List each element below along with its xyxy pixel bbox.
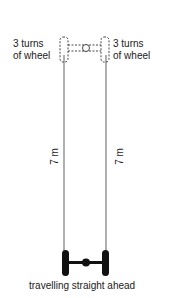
bottom-hub <box>82 259 90 267</box>
left-turns-line2: of wheel <box>13 50 50 62</box>
right-turns-label: 3 turns of wheel <box>113 38 150 62</box>
top-right-wheel-dashed <box>101 37 109 62</box>
top-hub-circle <box>83 45 90 52</box>
left-distance-label: 7 m <box>49 148 60 165</box>
left-turns-line1: 3 turns <box>13 38 50 50</box>
right-distance-label: 7 m <box>114 148 125 165</box>
bottom-right-wheel <box>102 250 109 276</box>
right-turns-line2: of wheel <box>113 50 150 62</box>
bottom-left-wheel <box>62 250 69 276</box>
left-turns-label: 3 turns of wheel <box>13 38 50 62</box>
caption: travelling straight ahead <box>29 280 135 292</box>
right-turns-line1: 3 turns <box>113 38 150 50</box>
